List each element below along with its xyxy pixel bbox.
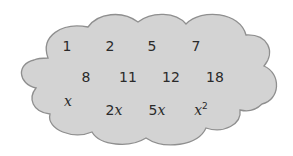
number-item: 8 <box>82 69 91 85</box>
algebraic-term: x2 <box>194 102 208 118</box>
term-variable: x <box>194 102 202 118</box>
number-item: 18 <box>206 69 224 85</box>
cloud-diagram: 1 2 5 7 8 11 12 18 x 2x 5x x2 <box>0 0 293 156</box>
number-item: 2 <box>106 38 115 54</box>
term-variable: x <box>115 102 123 118</box>
number-item: 5 <box>148 38 157 54</box>
term-variable: x <box>158 102 166 118</box>
term-coefficient: 2 <box>106 102 115 118</box>
number-item: 7 <box>192 38 201 54</box>
term-coefficient: 5 <box>149 102 158 118</box>
number-item: 11 <box>119 69 137 85</box>
algebraic-term: x <box>64 93 72 109</box>
algebraic-term: 2x <box>106 102 123 118</box>
term-exponent: 2 <box>202 101 208 111</box>
cloud-shape <box>0 0 293 156</box>
term-variable: x <box>64 93 72 109</box>
algebraic-term: 5x <box>149 102 166 118</box>
number-item: 1 <box>63 38 72 54</box>
number-item: 12 <box>162 69 180 85</box>
